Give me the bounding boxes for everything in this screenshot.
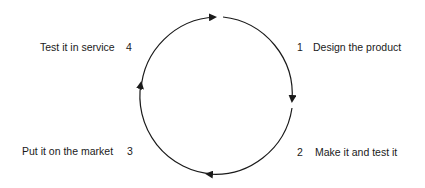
step-3-label: Put it on the market bbox=[22, 145, 113, 157]
arc-step3-to-step4 bbox=[140, 83, 213, 174]
step-4-number: 4 bbox=[126, 41, 132, 53]
arc-step2-to-step3 bbox=[207, 108, 292, 174]
step-2-label: Make it and test it bbox=[315, 146, 397, 158]
step-2-number: 2 bbox=[297, 146, 303, 158]
arc-step1-to-step2 bbox=[223, 17, 292, 101]
arc-step4-to-step1 bbox=[141, 17, 215, 90]
step-1-label: Design the product bbox=[313, 41, 401, 53]
step-3-number: 3 bbox=[127, 145, 133, 157]
step-4-label: Test it in service bbox=[40, 41, 115, 53]
step-1-number: 1 bbox=[297, 41, 303, 53]
cycle-diagram bbox=[0, 0, 425, 188]
